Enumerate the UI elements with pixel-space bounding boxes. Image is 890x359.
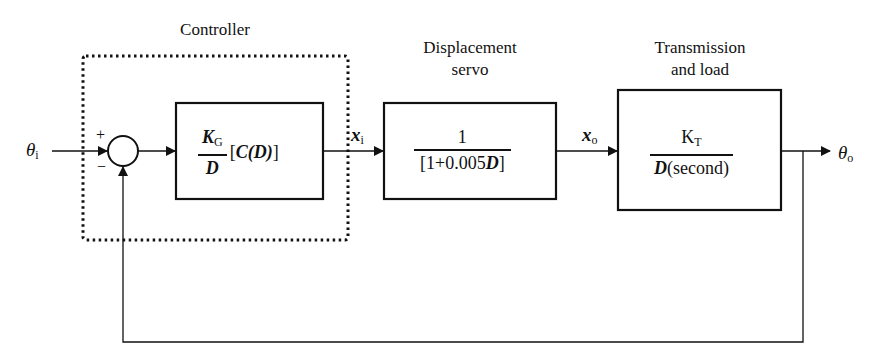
- controller-factor: [C(D)]: [230, 142, 279, 163]
- servo-title-line1: Displacement: [400, 37, 540, 59]
- xi-label: xi: [351, 125, 364, 150]
- output-subscript: o: [847, 151, 853, 165]
- transmission-denominator: D(second): [650, 156, 733, 180]
- controller-transfer-function: KG D [C(D)]: [198, 125, 279, 180]
- servo-transfer-function: 1 [1+0.005D]: [416, 125, 509, 175]
- transmission-title-line1: Transmission: [630, 37, 770, 59]
- servo-title-line2: servo: [400, 59, 540, 81]
- servo-denominator: [1+0.005D]: [416, 151, 509, 175]
- output-label: θo: [838, 143, 853, 168]
- controller-denominator: D: [202, 156, 223, 180]
- input-symbol: θ: [26, 139, 35, 160]
- transmission-load-title: Transmission and load: [630, 37, 770, 81]
- controller-title: Controller: [165, 19, 265, 41]
- displacement-servo-title: Displacement servo: [400, 37, 540, 81]
- input-subscript: i: [35, 148, 38, 162]
- plus-sign: +: [96, 126, 105, 144]
- servo-numerator: 1: [454, 125, 471, 149]
- transmission-numerator: KT: [677, 125, 705, 154]
- transmission-title-line2: and load: [630, 59, 770, 81]
- minus-sign: −: [97, 158, 106, 176]
- summing-junction: [108, 136, 138, 166]
- input-label: θi: [26, 140, 39, 165]
- controller-numerator: KG: [198, 125, 227, 154]
- output-symbol: θ: [838, 142, 847, 163]
- transmission-transfer-function: KT D(second): [650, 125, 733, 180]
- xo-label: xo: [582, 125, 598, 150]
